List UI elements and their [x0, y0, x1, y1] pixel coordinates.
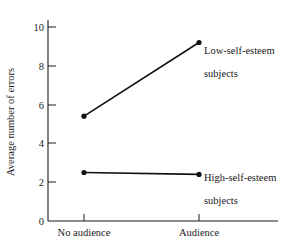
y-tick-label-10: 10 — [34, 22, 45, 33]
series-line-high-self-esteem — [84, 173, 199, 175]
y-axis-title: Average number of errors — [5, 68, 16, 176]
y-tick-label-6: 6 — [39, 100, 44, 111]
y-tick-label-2: 2 — [39, 177, 44, 188]
series-annotation-low-line1: Low-self-esteem — [204, 45, 275, 56]
data-point-low-no-audience — [81, 114, 86, 119]
series-line-low-self-esteem — [84, 43, 199, 117]
data-point-high-audience — [196, 172, 201, 177]
series-annotation-low-self-esteem: Low-self-esteem subjects — [204, 33, 288, 79]
x-category-label-no-audience: No audience — [58, 227, 111, 238]
y-tick-label-4: 4 — [39, 138, 45, 149]
series-annotation-high-line2: subjects — [204, 195, 238, 206]
series-annotation-high-self-esteem: High-self-esteem subjects — [204, 160, 288, 206]
series-annotation-low-line2: subjects — [204, 68, 238, 79]
chart-container: 10 8 6 4 2 0 No audience Audience Averag… — [0, 0, 290, 247]
y-tick-label-8: 8 — [39, 61, 44, 72]
x-category-label-audience: Audience — [179, 227, 220, 238]
data-point-low-audience — [196, 40, 201, 45]
data-point-high-no-audience — [81, 170, 86, 175]
series-annotation-high-line1: High-self-esteem — [204, 172, 276, 183]
y-tick-label-0: 0 — [39, 216, 44, 227]
